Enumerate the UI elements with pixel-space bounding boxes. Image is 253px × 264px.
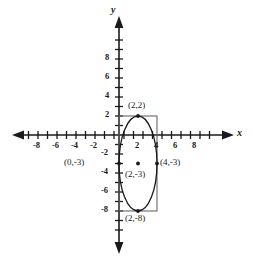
y-tick-label-neg2: -2 — [101, 148, 108, 157]
point-label-bottom-vertex: (2,-8) — [125, 214, 145, 223]
y-axis-top-arrow — [115, 16, 124, 28]
x-tick-label-pos6: 6 — [173, 141, 177, 150]
x-tick-label-pos2: 2 — [135, 141, 139, 150]
y-axis-bottom-arrow — [115, 242, 124, 254]
x-tick-label-pos8: 8 — [192, 141, 196, 150]
x-axis-right-arrow — [222, 131, 234, 140]
x-tick-label-neg6: -6 — [52, 141, 59, 150]
x-tick-label-neg4: -4 — [71, 141, 78, 150]
x-tick-label-neg8: -8 — [33, 141, 40, 150]
y-tick-label-neg8: -8 — [101, 205, 108, 214]
x-tick-label-pos4: 4 — [154, 141, 158, 150]
y-tick-label-pos4: 4 — [105, 91, 109, 100]
y-tick-label-neg6: -6 — [101, 186, 108, 195]
x-axis-left-arrow — [12, 131, 24, 140]
y-tick-label-pos2: 2 — [105, 110, 109, 119]
x-tick-label-neg2: -2 — [90, 141, 97, 150]
point-label-left-covertex: (0,-3) — [64, 158, 84, 167]
point-right-covertex — [155, 162, 159, 166]
point-left-covertex — [117, 162, 121, 166]
y-tick-label-pos8: 8 — [105, 53, 109, 62]
coordinate-plane-svg — [0, 0, 253, 264]
point-label-center: (2,-3) — [125, 170, 145, 179]
x-axis-label: x — [237, 128, 242, 138]
y-tick-label-neg4: -4 — [101, 167, 108, 176]
point-label-top-vertex: (2,2) — [128, 101, 145, 110]
y-tick-label-pos6: 6 — [105, 72, 109, 81]
point-center — [136, 162, 140, 166]
ellipse-graph-figure: y x -8 -6 -4 -2 2 4 6 8 8 6 4 2 -2 -4 -6… — [0, 0, 253, 264]
point-label-right-covertex: (4,-3) — [160, 158, 180, 167]
point-top-vertex — [136, 114, 140, 118]
y-axis-label: y — [111, 5, 115, 15]
